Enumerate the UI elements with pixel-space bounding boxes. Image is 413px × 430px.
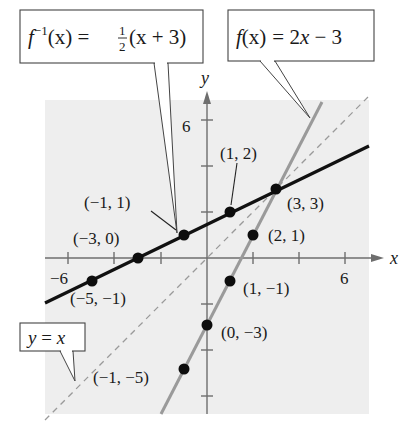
label-1-2: (1, 2) (220, 144, 257, 163)
svg-text:y = x: y = x (26, 327, 66, 348)
inverse-rhs: (x + 3) (129, 25, 186, 49)
point-neg1-neg5 (179, 364, 190, 375)
x-axis-label: x (389, 248, 398, 268)
x-axis-arrow-icon (371, 254, 384, 262)
function-lhs: (x) (242, 25, 267, 49)
y-tick-label-6: 6 (182, 117, 191, 136)
identity-x: x (56, 327, 66, 348)
y-axis-arrow-icon (203, 91, 211, 104)
point-2-1 (248, 230, 259, 241)
label-neg1-neg5: (−1, −5) (93, 368, 149, 387)
label-3-3: (3, 3) (287, 194, 324, 213)
point-neg3-0 (133, 253, 144, 264)
function-eq: = 2 (272, 25, 300, 49)
inverse-frac-num: 1 (119, 23, 126, 38)
x-tick-label-6: 6 (340, 269, 349, 288)
label-neg5-neg1: (−5, −1) (70, 289, 126, 308)
label-neg1-1: (−1, 1) (84, 193, 130, 212)
point-neg5-neg1 (87, 276, 98, 287)
point-neg1-1 (179, 230, 190, 241)
label-2-1: (2, 1) (268, 226, 305, 245)
identity-eq: = (36, 327, 56, 348)
point-0-neg3 (202, 320, 213, 331)
svg-text:f(x)= 2x − 3: f(x)= 2x − 3 (236, 25, 342, 49)
y-axis-label: y (199, 68, 209, 88)
inverse-function-graph: x −6 6 y 6 (−5, −1) (0, 0, 413, 430)
point-1-2 (225, 207, 236, 218)
inverse-lhs: (x) = (48, 25, 90, 49)
function-rest: − 3 (309, 25, 342, 49)
label-0-neg3: (0, −3) (221, 323, 267, 342)
point-1-neg1 (225, 276, 236, 287)
x-tick-label-neg6: −6 (50, 269, 68, 288)
label-1-neg1: (1, −1) (243, 279, 289, 298)
inverse-frac-den: 2 (119, 39, 126, 54)
point-3-3 (271, 184, 282, 195)
inverse-superscript: −1 (34, 23, 48, 38)
label-neg3-0: (−3, 0) (73, 229, 119, 248)
identity-y: y (26, 327, 37, 348)
